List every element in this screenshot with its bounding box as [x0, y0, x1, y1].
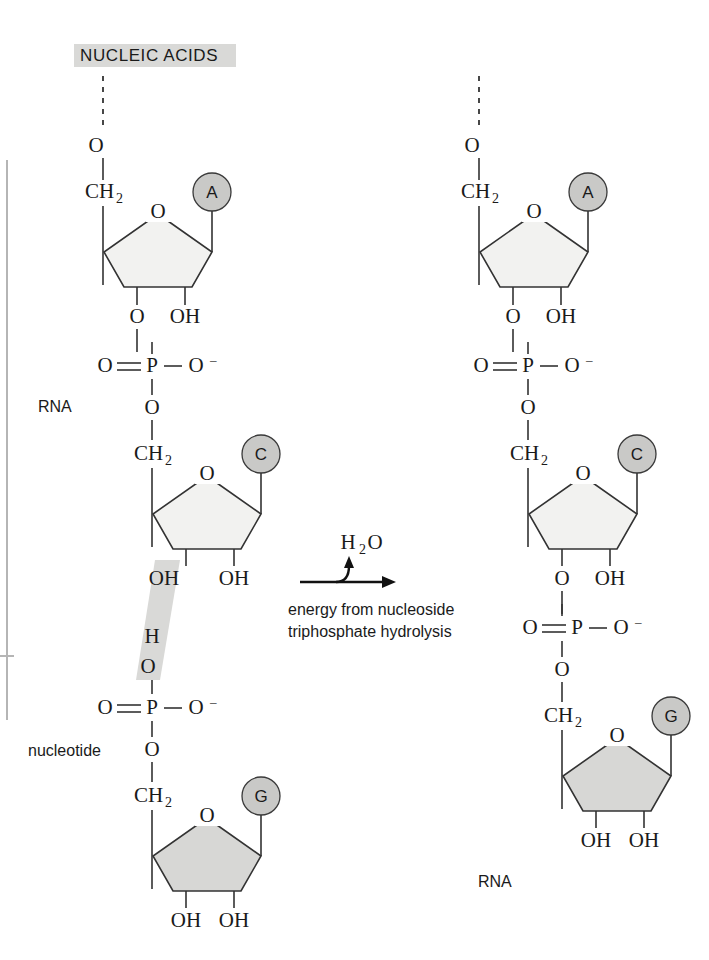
right-c-ring-oxygen: O [575, 461, 590, 485]
right-g-ring-oxygen: O [609, 723, 624, 747]
left-a-5prime-oxygen: O [88, 133, 103, 157]
left-c-ch2-subscript: 2 [165, 453, 172, 468]
left-p2-anion-oxygen: O [188, 695, 203, 719]
right-a-ribose-ring [480, 214, 588, 287]
left-rna-label: RNA [38, 398, 72, 415]
left-a-ch2-label: CH [85, 179, 114, 203]
reaction-caption-line2: triphosphate hydrolysis [288, 623, 452, 640]
left-g-2prime-hydroxyl: OH [219, 908, 249, 932]
right-phosphate-2: P O O – O [522, 591, 642, 702]
left-g-ring-oxygen: O [199, 803, 214, 827]
reaction-caption-line1: energy from nucleoside [288, 601, 454, 618]
left-a-base-letter: A [206, 183, 218, 202]
right-g-ch2-subscript: 2 [575, 715, 582, 730]
right-g-3prime-hydroxyl: OH [581, 828, 611, 852]
left-g-ch2-subscript: 2 [165, 795, 172, 810]
left-c-ring-oxygen: O [199, 461, 214, 485]
left-p2-anion-charge: – [209, 694, 217, 709]
left-p1-anion-charge: – [209, 352, 217, 367]
right-p2-anion-oxygen: O [613, 615, 628, 639]
left-g-3prime-hydroxyl: OH [171, 908, 201, 932]
left-p1-phosphorus: P [146, 353, 158, 377]
right-c-ch2-label: CH [510, 441, 539, 465]
left-c-3prime-hydroxyl: OH [149, 566, 179, 590]
left-p2-ester-oxygen: O [144, 737, 159, 761]
right-p2-phosphorus: P [571, 615, 583, 639]
right-a-ch2-subscript: 2 [492, 191, 499, 206]
water-label: H [340, 530, 355, 554]
right-p1-double-oxygen: O [473, 353, 488, 377]
left-strand: O CH 2 O A O OH [28, 76, 280, 932]
left-g-ribose-ring [153, 818, 261, 891]
right-p1-anion-charge: – [585, 352, 593, 367]
water-release-arrowhead [344, 556, 354, 568]
left-nucleotide-c: CH 2 O C [134, 435, 280, 566]
right-p1-bridging-oxygen: O [520, 395, 535, 419]
right-c-ch2-subscript: 2 [541, 453, 548, 468]
left-incoming-phosphate: P O O – O [97, 680, 217, 782]
right-strand: O CH 2 O A O OH P O [461, 76, 690, 890]
right-nucleotide-g: CH 2 O G OH OH [544, 697, 690, 852]
right-g-ch2-label: CH [544, 703, 573, 727]
left-phosphate-1: P O O – O [97, 329, 217, 440]
left-c-2prime-hydroxyl: OH [219, 566, 249, 590]
left-p1-double-oxygen: O [97, 353, 112, 377]
reaction-arrow-head [382, 576, 396, 588]
right-p2-double-oxygen: O [522, 615, 537, 639]
right-a-base-letter: A [582, 183, 594, 202]
right-nucleotide-a: O CH 2 O A O OH [461, 133, 607, 328]
left-p1-anion-oxygen: O [188, 353, 203, 377]
incoming-phosphate-hydrogen: H [144, 624, 159, 648]
figure-canvas: NUCLEIC ACIDS O CH 2 O A [0, 0, 709, 960]
reaction-arrow-group: H 2 O energy from nucleoside triphosphat… [288, 530, 454, 640]
right-g-base-letter: G [664, 707, 677, 726]
right-c-2prime-hydroxyl: OH [595, 566, 625, 590]
right-rna-label: RNA [478, 873, 512, 890]
left-p2-double-oxygen: O [97, 695, 112, 719]
right-c-3prime-oxygen: O [554, 566, 569, 590]
left-c-ribose-ring [153, 476, 261, 549]
left-c-ch2-label: CH [134, 441, 163, 465]
water-oxygen: O [367, 530, 382, 554]
right-g-2prime-hydroxyl: OH [629, 828, 659, 852]
right-phosphate-1: P O O – O [473, 329, 593, 440]
right-p1-anion-oxygen: O [564, 353, 579, 377]
page-title: NUCLEIC ACIDS [80, 46, 218, 65]
right-p2-bridging-oxygen: O [554, 657, 569, 681]
water-release-curve [336, 566, 349, 582]
left-g-base-letter: G [254, 787, 267, 806]
right-nucleotide-c: CH 2 O C O OH [510, 435, 656, 590]
right-a-ch2-label: CH [461, 179, 490, 203]
nucleic-acid-diagram: NUCLEIC ACIDS O CH 2 O A [0, 0, 709, 960]
left-nucleotide-g: CH 2 O G OH OH [134, 777, 280, 932]
right-p2-anion-charge: – [634, 614, 642, 629]
left-p1-bridging-oxygen: O [144, 395, 159, 419]
left-a-2prime-hydroxyl: OH [170, 304, 200, 328]
water-subscript: 2 [359, 542, 366, 557]
left-a-3prime-oxygen: O [129, 304, 144, 328]
incoming-phosphate-bridging-oxygen: O [140, 654, 155, 678]
left-g-ch2-label: CH [134, 783, 163, 807]
left-a-ring-oxygen: O [150, 199, 165, 223]
right-a-ring-oxygen: O [526, 199, 541, 223]
right-a-5prime-oxygen: O [464, 133, 479, 157]
left-a-ribose-ring [104, 214, 212, 287]
left-p2-phosphorus: P [146, 695, 158, 719]
right-g-ribose-ring [563, 738, 671, 811]
left-a-ch2-subscript: 2 [116, 191, 123, 206]
left-c-base-letter: C [255, 445, 267, 464]
left-nucleotide-a: O CH 2 O A O OH [85, 133, 231, 328]
right-c-base-letter: C [631, 445, 643, 464]
left-nucleotide-label: nucleotide [28, 742, 101, 759]
right-c-ribose-ring [529, 476, 637, 549]
right-a-3prime-oxygen: O [505, 304, 520, 328]
right-a-2prime-hydroxyl: OH [546, 304, 576, 328]
right-p1-phosphorus: P [522, 353, 534, 377]
